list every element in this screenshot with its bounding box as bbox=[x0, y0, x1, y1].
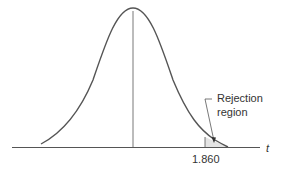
density-curve bbox=[41, 8, 228, 147]
annotation-arrow-line bbox=[205, 99, 214, 141]
rejection-region-label-line2: region bbox=[217, 106, 248, 119]
rejection-region-label-line1: Rejection bbox=[217, 92, 263, 105]
t-distribution-figure bbox=[0, 0, 283, 177]
critical-value-label: 1.860 bbox=[192, 153, 220, 166]
t-axis-label: t bbox=[266, 142, 269, 155]
